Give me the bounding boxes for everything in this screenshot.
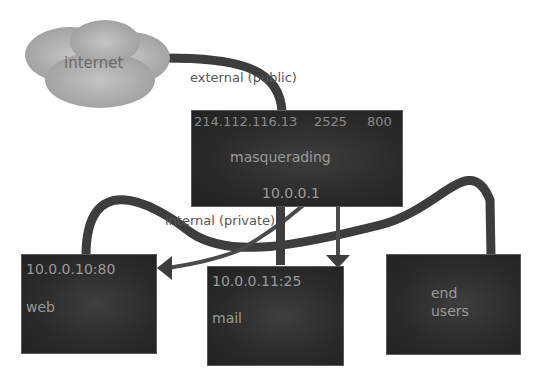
end-users-line2: users bbox=[431, 303, 469, 319]
port-800: 800 bbox=[367, 114, 392, 129]
external-link bbox=[165, 58, 282, 112]
private-ip: 10.0.0.1 bbox=[262, 185, 320, 201]
mail-address: 10.0.0.11:25 bbox=[212, 273, 301, 289]
public-ip: 214.112.116.13 bbox=[194, 114, 297, 129]
internet-label: internet bbox=[64, 54, 123, 72]
external-public-label: external (public) bbox=[190, 70, 297, 85]
web-arrowhead bbox=[157, 256, 172, 280]
end-users-box: end users bbox=[386, 254, 521, 355]
web-server-box: 10.0.0.10:80 web bbox=[21, 254, 157, 354]
web-address: 10.0.0.10:80 bbox=[26, 261, 115, 277]
end-users-line1: end bbox=[431, 285, 457, 301]
router-box: 214.112.116.13 2525 800 masquerading 10.… bbox=[191, 110, 403, 207]
masquerading-label: masquerading bbox=[230, 149, 331, 165]
port-2525: 2525 bbox=[314, 114, 347, 129]
mail-label: mail bbox=[212, 310, 242, 326]
internal-private-label: internal (private) bbox=[165, 213, 275, 228]
mail-server-box: 10.0.0.11:25 mail bbox=[207, 266, 344, 366]
web-label: web bbox=[26, 299, 55, 315]
